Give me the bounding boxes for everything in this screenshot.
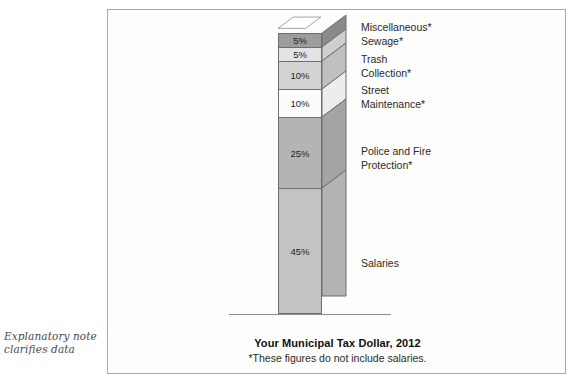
baseline-axis: [229, 314, 391, 315]
depth-segment-salaries: [322, 170, 346, 296]
segment-value-street-maintenance: 10%: [290, 98, 309, 109]
margin-annotation-line-2: clarifies data: [4, 343, 102, 356]
segment-salaries[interactable]: 45%: [278, 188, 322, 314]
chart-footnote: *These figures do not include salaries.: [108, 352, 567, 364]
segment-sewage[interactable]: 5%: [278, 47, 322, 61]
callout-maintenance: Maintenance*: [361, 98, 425, 112]
callout-police-and-fire: Police and Fire: [361, 145, 431, 159]
callout-sewage: Sewage*: [361, 35, 403, 49]
title-block: Your Municipal Tax Dollar, 2012 *These f…: [108, 337, 567, 364]
segment-street-maintenance[interactable]: 10%: [278, 89, 322, 117]
segment-value-salaries: 45%: [290, 246, 309, 257]
callout-trash: Trash: [361, 53, 387, 67]
segment-value-trash-collection: 10%: [290, 70, 309, 81]
callout-collection: Collection*: [361, 67, 411, 81]
segment-miscellaneous[interactable]: 5%: [278, 33, 322, 47]
segment-trash-collection[interactable]: 10%: [278, 61, 322, 89]
column-front-face: 5% 5% 10% 10% 25% 45%: [278, 33, 322, 314]
callout-street: Street: [361, 84, 389, 98]
callout-salaries: Salaries: [361, 257, 399, 271]
margin-annotation-note: Explanatory note clarifies data: [4, 330, 102, 356]
segment-value-police-and-fire-protection: 25%: [290, 148, 309, 159]
stacked-column-chart: 5% 5% 10% 10% 25% 45% Miscellaneous* Sew…: [108, 10, 567, 375]
segment-police-and-fire-protection[interactable]: 25%: [278, 117, 322, 188]
margin-annotation-line-1: Explanatory note: [4, 330, 102, 343]
chart-frame: 5% 5% 10% 10% 25% 45% Miscellaneous* Sew…: [107, 9, 566, 374]
segment-value-miscellaneous: 5%: [293, 35, 307, 46]
callout-miscellaneous: Miscellaneous*: [361, 21, 432, 35]
callout-protection: Protection*: [361, 159, 412, 173]
chart-title: Your Municipal Tax Dollar, 2012: [108, 337, 567, 349]
segment-value-sewage: 5%: [293, 49, 307, 60]
column-depth-panel: [322, 15, 352, 305]
